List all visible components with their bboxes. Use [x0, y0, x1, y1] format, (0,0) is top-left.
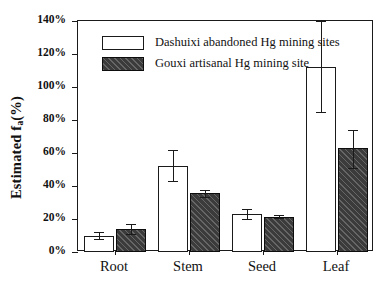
error-cap-lower — [348, 168, 358, 169]
error-bar-leaf-series2 — [353, 130, 354, 168]
error-cap-upper — [200, 190, 210, 191]
y-axis-tick-label: 60% — [0, 145, 66, 157]
error-cap-upper — [168, 150, 178, 151]
y-axis-tick — [72, 87, 78, 88]
figure-canvas: Estimated fa(%) 0%20%40%60%80%100%120%14… — [0, 0, 391, 295]
y-axis-tick — [72, 54, 78, 55]
error-cap-lower — [168, 181, 178, 182]
y-axis-tick-label: 140% — [0, 13, 66, 25]
error-cap-upper — [316, 21, 326, 22]
y-axis-tick-label: 80% — [0, 112, 66, 124]
y-axis-tick-label: 100% — [0, 79, 66, 91]
error-cap-upper — [242, 209, 252, 210]
error-cap-lower — [126, 234, 136, 235]
legend-item: Dashuixi abandoned Hg mining sites — [102, 33, 340, 52]
y-axis-tick — [72, 252, 78, 253]
y-axis-tick — [72, 120, 78, 121]
error-cap-upper — [94, 232, 104, 233]
bar-seed-series2 — [264, 217, 294, 252]
legend-label-gouxi: Gouxi artisanal Hg mining site — [155, 56, 309, 71]
error-cap-upper — [348, 130, 358, 131]
plot-area: Dashuixi abandoned Hg mining sites Gouxi… — [77, 20, 373, 251]
bar-stem-series2 — [190, 193, 220, 252]
legend-label-dashuixi: Dashuixi abandoned Hg mining sites — [155, 35, 340, 50]
legend-item: Gouxi artisanal Hg mining site — [102, 54, 340, 73]
y-axis-tick — [72, 153, 78, 154]
legend: Dashuixi abandoned Hg mining sites Gouxi… — [102, 33, 340, 75]
error-cap-lower — [316, 112, 326, 113]
legend-swatch-gouxi — [102, 57, 144, 71]
legend-swatch-dashuixi — [102, 36, 144, 50]
y-axis-tick — [72, 21, 78, 22]
y-axis-tick — [72, 219, 78, 220]
y-axis-tick-label: 120% — [0, 46, 66, 58]
error-cap-upper — [126, 224, 136, 225]
error-cap-lower — [94, 239, 104, 240]
error-bar-seed-series1 — [247, 209, 248, 219]
x-axis-tick-label-leaf: Leaf — [291, 258, 381, 275]
error-cap-upper — [274, 215, 284, 216]
error-bar-stem-series1 — [173, 150, 174, 181]
error-cap-lower — [274, 218, 284, 219]
y-axis-tick — [72, 186, 78, 187]
error-bar-root-series2 — [131, 224, 132, 234]
error-cap-lower — [200, 197, 210, 198]
error-cap-lower — [242, 219, 252, 220]
y-axis-tick-label: 40% — [0, 178, 66, 190]
y-axis-tick-label: 20% — [0, 211, 66, 223]
y-axis-tick-label: 0% — [0, 244, 66, 256]
